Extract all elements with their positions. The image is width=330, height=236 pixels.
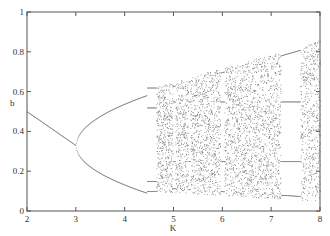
x-axis-label: K [170,223,177,233]
svg-text:0: 0 [20,206,25,216]
svg-text:4: 4 [122,214,127,224]
svg-text:0.6: 0.6 [13,87,25,97]
svg-text:7: 7 [269,214,274,224]
svg-text:0.2: 0.2 [13,166,24,176]
y-axis-label: b [10,98,15,108]
svg-text:3: 3 [74,214,79,224]
svg-text:2: 2 [25,214,30,224]
svg-text:6: 6 [220,214,225,224]
bifurcation-chart: 234567800.20.40.60.81 K b [0,0,330,236]
svg-text:0.8: 0.8 [13,47,25,57]
scatter-points [27,41,321,201]
svg-text:8: 8 [318,214,323,224]
svg-text:1: 1 [20,7,25,17]
svg-text:0.4: 0.4 [13,126,25,136]
plot-frame [27,12,320,211]
